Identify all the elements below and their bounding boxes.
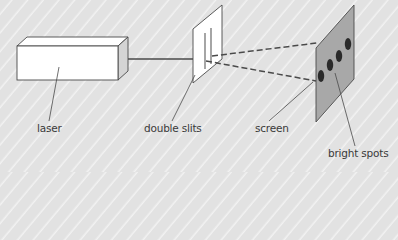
bright-spot [345,38,351,50]
bright-spot [336,50,342,62]
ray-upper [212,43,317,56]
label-screen: screen [255,122,289,134]
laser-top-face [17,37,128,46]
slit-plate [193,5,222,83]
screen [316,5,354,122]
laser-box [17,37,128,80]
bright-spot [327,59,333,71]
double-slit-plate [193,5,222,83]
leader-screen [269,82,313,121]
laser-front-face [17,46,118,80]
label-laser: laser [37,122,62,134]
ray-lower [206,61,316,81]
leader-double-slits [172,75,195,121]
label-double-slits: double slits [144,122,202,134]
label-bright-spots: bright spots [328,147,388,159]
bright-spot [318,70,324,82]
